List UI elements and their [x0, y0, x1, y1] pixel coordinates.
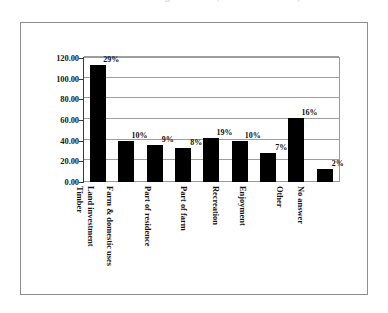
bar-value-label: 2% — [332, 159, 344, 168]
x-axis-category-label: Other — [276, 186, 286, 207]
x-axis-category-label: Recreation — [210, 186, 220, 225]
figure-caption: Reasons for Owning Woodland (Number of O… — [88, 0, 301, 2]
bar-slot: 7% — [254, 58, 282, 182]
y-axis-tick — [79, 120, 83, 121]
y-axis-tick-label: 80.00 — [60, 94, 79, 104]
y-axis-labels: 0.0020.0040.0060.0080.00100.00120.00 — [32, 57, 79, 182]
y-axis-tick-label: 100.00 — [56, 74, 79, 84]
y-axis-tick — [79, 99, 83, 100]
x-axis-category-label: No answer — [296, 186, 306, 224]
bar-slot: 16% — [282, 58, 310, 182]
y-axis-tick — [79, 79, 83, 80]
bar-slot: 29% — [84, 58, 112, 182]
bar[interactable] — [118, 141, 134, 182]
bar[interactable] — [288, 118, 304, 182]
x-axis-category-label: Timber — [75, 186, 85, 213]
x-axis-category-label: Enjoyment — [238, 186, 248, 226]
bar-slot: 10% — [112, 58, 140, 182]
bar[interactable] — [232, 141, 248, 182]
x-axis-category-label: Part of farm — [179, 186, 189, 231]
gridline — [84, 56, 339, 57]
x-axis-category-label: Land investment — [86, 186, 96, 246]
bar[interactable] — [175, 148, 191, 182]
bar[interactable] — [90, 65, 106, 182]
y-axis-tick-label: 120.00 — [56, 53, 79, 63]
x-axis-label-slot: No answer — [311, 184, 339, 276]
bar-slot: 19% — [197, 58, 225, 182]
bar[interactable] — [203, 138, 219, 182]
x-axis-category-label: Farm & domestic uses — [105, 186, 115, 266]
bar[interactable] — [260, 153, 276, 182]
figure-caption-strip: Reasons for Owning Woodland (Number of O… — [0, 0, 388, 9]
x-axis-label-slot: Land investment — [112, 184, 140, 276]
x-axis-labels: TimberLand investmentFarm & domestic use… — [84, 184, 339, 276]
bar-slot: 8% — [169, 58, 197, 182]
y-axis-tick — [79, 161, 83, 162]
y-axis-tick — [79, 141, 83, 142]
bars-layer: 29%10%9%8%19%10%7%16%2% — [84, 58, 339, 182]
bar-slot: 10% — [226, 58, 254, 182]
x-axis-category-label: Part of residence — [143, 186, 153, 246]
y-axis-tick — [79, 182, 83, 183]
y-axis-tick-label: 40.00 — [60, 136, 79, 146]
y-axis-tick-label: 60.00 — [60, 115, 79, 125]
bar-slot: 9% — [141, 58, 169, 182]
bar[interactable] — [147, 145, 163, 182]
bar-slot: 2% — [311, 58, 339, 182]
bar[interactable] — [317, 169, 333, 182]
y-axis-tick — [79, 58, 83, 59]
y-axis-tick-label: 20.00 — [60, 156, 79, 166]
